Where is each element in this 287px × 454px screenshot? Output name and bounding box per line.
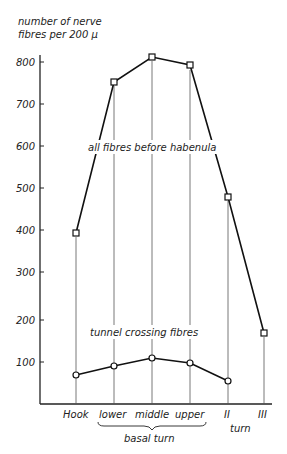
svg-text:200: 200 bbox=[16, 315, 35, 326]
svg-text:800: 800 bbox=[16, 57, 35, 68]
group-label-turn: turn bbox=[230, 423, 251, 434]
group-label-basal-turn: basal turn bbox=[124, 433, 174, 444]
svg-text:upper: upper bbox=[175, 409, 205, 420]
svg-text:100: 100 bbox=[16, 357, 35, 368]
drop-lines bbox=[76, 61, 264, 404]
svg-text:III: III bbox=[258, 409, 267, 420]
chart: number of nerve fibres per 200 µ 800 700… bbox=[0, 0, 287, 454]
svg-text:middle: middle bbox=[135, 409, 169, 420]
series-all-fibres-markers bbox=[73, 54, 267, 336]
svg-text:600: 600 bbox=[16, 141, 35, 152]
y-axis-label-line2: fibres per 200 µ bbox=[18, 29, 98, 40]
svg-text:300: 300 bbox=[16, 267, 35, 278]
series-all-fibres-line bbox=[76, 57, 264, 333]
svg-text:700: 700 bbox=[16, 99, 35, 110]
svg-text:II: II bbox=[224, 409, 230, 420]
svg-text:500: 500 bbox=[16, 183, 35, 194]
svg-text:lower: lower bbox=[99, 409, 127, 420]
svg-text:400: 400 bbox=[16, 225, 35, 236]
svg-text:Hook: Hook bbox=[63, 409, 90, 420]
basal-turn-brace bbox=[98, 422, 206, 430]
y-axis-label-line1: number of nerve bbox=[18, 16, 102, 27]
series-tunnel-label: tunnel crossing fibres bbox=[90, 327, 198, 338]
x-tick-labels: Hook lower middle upper II III bbox=[63, 409, 267, 420]
series-all-fibres-label: all fibres before habenula bbox=[88, 142, 216, 153]
